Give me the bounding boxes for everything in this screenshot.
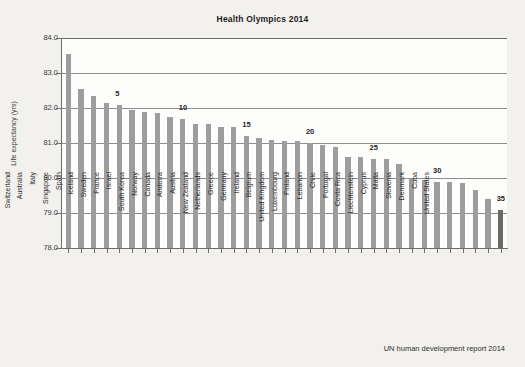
- x-axis-category-label: Malta: [372, 172, 379, 252]
- y-axis-tick-label: 81.0: [18, 138, 58, 147]
- chart-title: Health Olympics 2014: [0, 14, 525, 24]
- x-axis-category-label: Liechtenstein: [347, 172, 354, 252]
- y-axis-tick-label: 82.0: [18, 103, 58, 112]
- rank-annotation: 20: [306, 127, 314, 136]
- y-axis-tick-label: 84.0: [18, 33, 58, 42]
- x-axis-category-label: Iceland: [67, 172, 74, 252]
- rank-annotation: 15: [242, 120, 250, 129]
- x-axis-category-label: Spain: [55, 172, 62, 252]
- x-axis-tick-mark: [437, 249, 438, 253]
- bar[interactable]: [460, 183, 465, 248]
- x-axis-category-label: Italy: [29, 172, 36, 252]
- x-axis-category-label: Netherlands: [194, 172, 201, 252]
- y-axis-tick-label: 80.0: [18, 173, 58, 182]
- x-axis-tick-mark: [501, 249, 502, 253]
- x-axis-category-label: Costa Rica: [334, 172, 341, 252]
- x-axis-category-label: Switzerland: [4, 172, 11, 252]
- x-axis-category-label: Finland: [283, 172, 290, 252]
- x-axis-tick-mark: [450, 249, 451, 253]
- x-axis-category-label: Israel: [105, 172, 112, 252]
- x-axis-category-label: Lebanon: [296, 172, 303, 252]
- y-axis-tick-mark: [56, 143, 62, 144]
- x-axis-category-label: Slovenia: [385, 172, 392, 252]
- x-axis-category-label: Cyprus: [360, 172, 367, 252]
- x-axis-category-label: Belgium: [245, 172, 252, 252]
- y-axis-tick-mark: [56, 73, 62, 74]
- x-axis-category-label: Australia: [16, 172, 23, 252]
- x-axis-category-label: France: [93, 172, 100, 252]
- bar[interactable]: [473, 190, 478, 248]
- x-axis-category-label: Portugal: [322, 172, 329, 252]
- x-axis-category-label: Chile: [309, 172, 316, 252]
- x-axis-category-label: South Korea: [118, 172, 125, 252]
- x-axis-category-label: United States: [423, 172, 430, 252]
- y-axis-tick-mark: [56, 108, 62, 109]
- x-axis-tick-mark: [488, 249, 489, 253]
- x-axis-category-label: Ireland: [233, 172, 240, 252]
- x-axis-category-label: Austria: [169, 172, 176, 252]
- bar[interactable]: [447, 182, 452, 249]
- rank-annotation: 25: [370, 143, 378, 152]
- x-axis-category-label: Canada: [144, 172, 151, 252]
- rank-annotation: 30: [433, 166, 441, 175]
- gridline: [62, 73, 507, 74]
- x-axis-category-label: Singapore: [42, 172, 49, 252]
- y-axis-tick-label: 83.0: [18, 68, 58, 77]
- x-axis-category-label: Luxembourg: [271, 172, 278, 252]
- y-axis-tick-label: 78.0: [18, 243, 58, 252]
- bar[interactable]: [498, 210, 503, 249]
- bar[interactable]: [485, 199, 490, 248]
- y-axis-tick-label: 79.0: [18, 208, 58, 217]
- rank-annotation: 10: [179, 103, 187, 112]
- source-note: UN human development report 2014: [384, 344, 505, 353]
- y-axis-tick-mark: [56, 38, 62, 39]
- x-axis-category-label: Denmark: [398, 172, 405, 252]
- x-axis-category-label: Sweden: [80, 172, 87, 252]
- health-olympics-bar-chart: Health Olympics 2014 Life expectancy (yr…: [0, 0, 525, 367]
- x-axis-category-label: New Zealand: [182, 172, 189, 252]
- rank-annotation: 5: [115, 89, 119, 98]
- bar[interactable]: [434, 182, 439, 249]
- plot-top-border: [62, 38, 507, 39]
- x-axis-category-label: United Kingdom: [258, 172, 265, 252]
- x-axis-category-label: Cuba: [411, 172, 418, 252]
- x-axis-category-label: Norway: [131, 172, 138, 252]
- x-axis-category-label: Greece: [207, 172, 214, 252]
- rank-annotation: 35: [497, 194, 505, 203]
- x-axis-tick-mark: [475, 249, 476, 253]
- x-axis-category-label: Germany: [220, 172, 227, 252]
- x-axis-category-label: Andorra: [156, 172, 163, 252]
- x-axis-tick-mark: [463, 249, 464, 253]
